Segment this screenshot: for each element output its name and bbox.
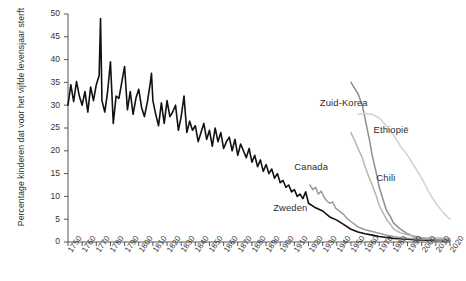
- series-label: Zuid-Korea: [320, 97, 368, 108]
- x-axis-tick-label: 1870: [236, 234, 254, 254]
- x-axis-tick-label: 1810: [151, 234, 169, 254]
- x-axis-tick-label: 1910: [292, 234, 310, 254]
- x-axis-tick-label: 2000: [420, 234, 438, 254]
- x-axis-tick-label: 1790: [123, 234, 141, 254]
- x-axis-tick-label: 1760: [80, 234, 98, 254]
- x-axis-tick-label: 1890: [264, 234, 282, 254]
- series-label: Zweden: [273, 202, 307, 213]
- x-axis-tick-label: 1900: [278, 234, 296, 254]
- x-axis-tick-label: 2020: [448, 234, 466, 254]
- x-axis-tick-label: 1780: [108, 234, 126, 254]
- x-axis-tick-label: 1980: [391, 234, 409, 254]
- x-axis-tick-label: 1830: [179, 234, 197, 254]
- x-axis-tick-label: 1880: [250, 234, 268, 254]
- x-axis-tick-label: 1770: [94, 234, 112, 254]
- x-axis-tick-label: 1800: [137, 234, 155, 254]
- series-label: Ethiopië: [374, 124, 409, 135]
- x-axis-tick-label: 1940: [335, 234, 353, 254]
- series-label: Chili: [376, 172, 395, 183]
- x-axis-tick-label: 1950: [349, 234, 367, 254]
- series-label: Canada: [294, 161, 328, 172]
- x-axis-tick-label: 1750: [66, 234, 84, 254]
- x-axis-tick-label: 2010: [434, 234, 452, 254]
- x-axis-tick-label: 1930: [321, 234, 339, 254]
- x-axis-tick-label: 1970: [377, 234, 395, 254]
- x-axis-tick-label: 1960: [363, 234, 381, 254]
- x-axis-tick-label: 1920: [307, 234, 325, 254]
- x-axis-tick-label: 1840: [193, 234, 211, 254]
- x-axis-tick-label: 1850: [207, 234, 225, 254]
- x-axis-tick-label: 1990: [406, 234, 424, 254]
- x-axis-tick-label: 1860: [222, 234, 240, 254]
- x-axis-tick-label: 1820: [165, 234, 183, 254]
